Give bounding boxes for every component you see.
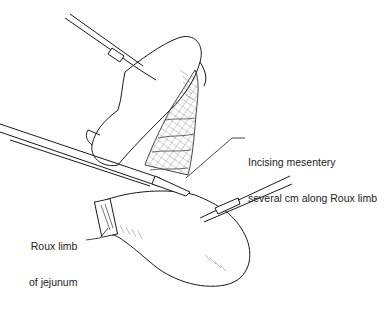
mesentery-leader-line	[186, 138, 245, 178]
mesentery-label-line1: Incising mesentery	[248, 156, 377, 168]
roux-limb-label: Roux limb of jejunum	[29, 216, 77, 312]
roux-label-line2: of jejunum	[29, 276, 77, 288]
surgical-illustration: Incising mesentery several cm along Roux…	[0, 0, 387, 312]
mesentery-label: Incising mesentery several cm along Roux…	[248, 132, 377, 228]
roux-label-line1: Roux limb	[29, 240, 77, 252]
mesentery-label-line2: several cm along Roux limb	[248, 192, 377, 204]
